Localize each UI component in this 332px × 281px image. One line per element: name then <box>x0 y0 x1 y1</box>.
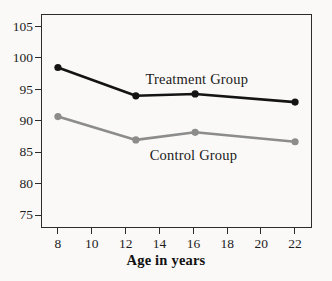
data-point-marker <box>291 138 298 145</box>
series-layer <box>41 14 312 228</box>
data-point-marker <box>132 92 139 99</box>
x-tick-mark <box>91 228 92 234</box>
y-tick-label: 85 <box>20 145 34 159</box>
x-tick-mark <box>125 228 126 234</box>
x-tick-mark <box>193 228 194 234</box>
x-tick-mark <box>57 228 58 234</box>
y-tick-label: 80 <box>20 177 34 191</box>
plot-area <box>41 14 312 228</box>
y-tick-label: 75 <box>20 208 34 222</box>
series-line <box>58 117 295 142</box>
x-tick-mark <box>294 228 295 234</box>
y-tick-label: 105 <box>13 20 33 34</box>
data-point-marker <box>192 129 199 136</box>
x-tick-mark <box>227 228 228 234</box>
x-tick-mark <box>159 228 160 234</box>
series-annotation: Treatment Group <box>145 71 248 88</box>
data-point-marker <box>54 64 61 71</box>
x-tick-mark <box>260 228 261 234</box>
series-annotation: Control Group <box>150 147 238 164</box>
data-point-marker <box>132 136 139 143</box>
y-tick-label: 100 <box>13 51 33 65</box>
chart-figure: 7580859095100105 810121416182022 Treatme… <box>0 0 332 281</box>
y-tick-label: 95 <box>20 83 34 97</box>
x-axis-title: Age in years <box>0 252 332 269</box>
data-point-marker <box>192 90 199 97</box>
x-tick-label: 22 <box>275 237 315 251</box>
y-tick-label: 90 <box>20 114 34 128</box>
data-point-marker <box>291 99 298 106</box>
data-point-marker <box>54 113 61 120</box>
